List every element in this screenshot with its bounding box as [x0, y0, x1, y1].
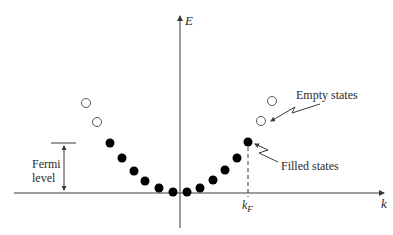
filled-state-point: [118, 154, 127, 163]
fermi-level-label-line1: Fermi: [32, 157, 61, 171]
filled-state-point: [221, 166, 230, 175]
empty-state-point: [268, 97, 277, 106]
filled-state-point: [169, 188, 178, 197]
fermi-level-label-line2: level: [32, 171, 56, 185]
filled-state-point: [130, 167, 139, 176]
filled-state-point: [244, 138, 253, 147]
energy-axis-label: E: [184, 13, 193, 28]
filled-state-point: [183, 188, 192, 197]
filled-state-point: [106, 139, 115, 148]
filled-state-point: [233, 154, 242, 163]
empty-state-points: [82, 97, 277, 127]
empty-state-point: [82, 99, 91, 108]
filled-state-points: [106, 138, 253, 197]
empty-state-point: [93, 118, 102, 127]
filled-state-point: [155, 184, 164, 193]
filled-state-point: [196, 184, 205, 193]
empty-state-point: [257, 117, 266, 126]
k-axis-label: k: [381, 196, 387, 211]
filled-state-point: [141, 177, 150, 186]
empty-states-pointer: [271, 104, 320, 121]
filled-state-point: [209, 176, 218, 185]
filled-states-pointer: [255, 144, 278, 162]
free-electron-dispersion-diagram: E k kF Fermi level Empty states Filled s…: [0, 0, 393, 235]
kf-label: kF: [242, 198, 253, 214]
filled-states-label: Filled states: [281, 159, 339, 173]
empty-states-label: Empty states: [296, 88, 358, 102]
